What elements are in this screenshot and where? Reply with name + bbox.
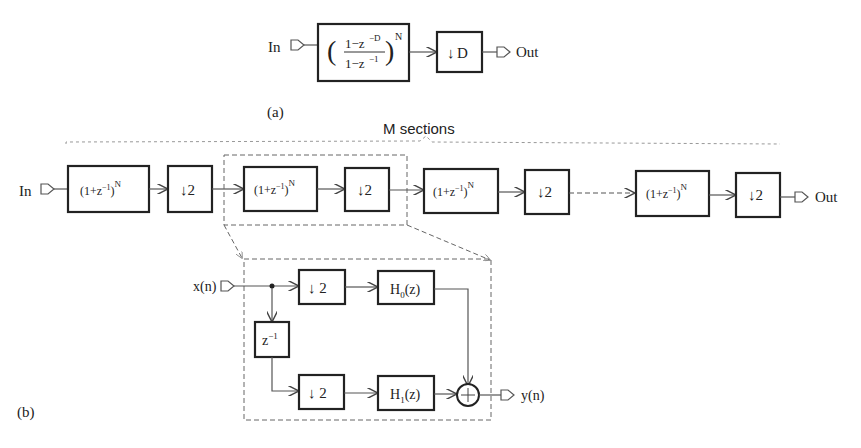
svg-text:↓ 2: ↓ 2 bbox=[308, 385, 327, 401]
caption-a: (a) bbox=[267, 104, 284, 121]
section-1: (1+z−1)N ↓2 bbox=[68, 166, 243, 212]
m-sections-bracket bbox=[66, 136, 780, 144]
svg-text:↓ 2: ↓ 2 bbox=[308, 280, 327, 296]
decimator-factor-a: D bbox=[457, 45, 468, 61]
zoom-projection-right bbox=[407, 225, 490, 260]
output-label-b: Out bbox=[815, 189, 838, 205]
input-label-a: In bbox=[268, 39, 281, 55]
caption-b: (b) bbox=[17, 404, 35, 421]
input-port-a bbox=[291, 40, 304, 50]
svg-text:(: ( bbox=[327, 35, 336, 66]
output-port-b bbox=[795, 192, 808, 202]
input-port-b bbox=[41, 184, 54, 194]
svg-text:N: N bbox=[395, 31, 402, 42]
figure-a: In ( 1−z −D 1−z −1 ) N ↓ D Out (a) bbox=[267, 24, 539, 121]
svg-text:): ) bbox=[385, 35, 394, 66]
svg-text:−1: −1 bbox=[369, 54, 379, 64]
output-port-a bbox=[497, 47, 510, 57]
section-3: (1+z−1)N ↓2 bbox=[424, 169, 634, 214]
svg-text:↓2: ↓2 bbox=[357, 182, 372, 198]
input-label-b: In bbox=[19, 183, 32, 199]
m-sections-label: M sections bbox=[383, 120, 455, 137]
svg-text:↓2: ↓2 bbox=[180, 182, 195, 198]
cic-decimator-diagram: In ( 1−z −D 1−z −1 ) N ↓ D Out (a) M sec… bbox=[0, 0, 861, 448]
svg-text:−D: −D bbox=[369, 33, 381, 43]
svg-text:↓2: ↓2 bbox=[748, 187, 763, 203]
section-m: (1+z−1)N ↓2 bbox=[636, 171, 808, 217]
section-2: (1+z−1)N ↓2 bbox=[244, 167, 423, 211]
branch-node bbox=[270, 284, 275, 289]
decimator-arrow-a: ↓ bbox=[447, 45, 455, 61]
x-n-label: x(n) bbox=[193, 279, 217, 295]
x-n-port bbox=[221, 281, 234, 291]
zoom-projection-left bbox=[224, 225, 242, 258]
figure-b: M sections In (1+z−1)N ↓2 (1+z−1)N ↓2 bbox=[17, 120, 838, 421]
svg-text:1−z: 1−z bbox=[345, 56, 365, 71]
y-n-port bbox=[501, 390, 514, 400]
svg-text:↓2: ↓2 bbox=[537, 184, 552, 200]
output-label-a: Out bbox=[516, 44, 539, 60]
y-n-label: y(n) bbox=[521, 388, 545, 404]
svg-text:1−z: 1−z bbox=[345, 36, 365, 51]
